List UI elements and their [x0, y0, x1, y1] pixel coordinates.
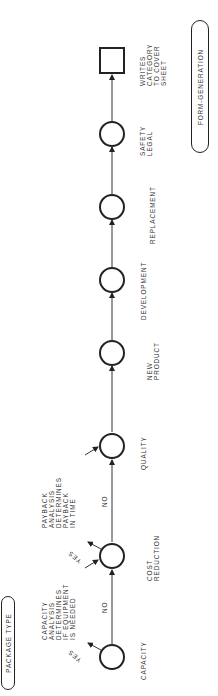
label-development: DEVELOPMENT [140, 262, 147, 320]
node-cost-reduction[interactable] [100, 544, 124, 568]
label-safety-legal: SAFETY LEGAL [139, 126, 153, 156]
yes-branch-arrows [88, 542, 101, 650]
node-development[interactable] [100, 268, 124, 292]
label-cost-reduction: COST REDUCTION [146, 535, 160, 581]
start-terminal-label: PACKAGE TYPE [5, 613, 12, 673]
note-arrows [85, 447, 98, 568]
start-terminal[interactable]: PACKAGE TYPE [1, 596, 15, 690]
label-writes-category: WRITES CATEGORY TO COVER SHEET [139, 44, 167, 86]
node-capacity[interactable] [100, 645, 124, 669]
edge-label-no-2: NO [101, 496, 108, 507]
node-writes-category[interactable] [100, 48, 124, 73]
note-payback-analysis: PAYBACK ANALYSIS DETERMINES PAYBACK IN T… [41, 477, 76, 528]
label-quality: QUALITY [140, 436, 147, 470]
note-capacity-analysis: CAPACITY ANALYSIS DETERMINES IF EQUIPMEN… [41, 584, 76, 640]
node-quality[interactable] [100, 434, 124, 458]
label-capacity: CAPACITY [140, 641, 147, 680]
node-replacement[interactable] [100, 195, 124, 219]
label-replacement: REPLACEMENT [149, 186, 156, 244]
node-safety-legal[interactable] [100, 122, 124, 146]
node-new-product[interactable] [100, 341, 124, 365]
edge-label-no-1: NO [101, 602, 108, 613]
end-terminal[interactable]: FORM-GENERATION [191, 20, 209, 153]
end-terminal-label: FORM-GENERATION [197, 48, 204, 124]
label-new-product: NEW PRODUCT [146, 342, 160, 380]
flowchart-canvas [0, 0, 218, 696]
